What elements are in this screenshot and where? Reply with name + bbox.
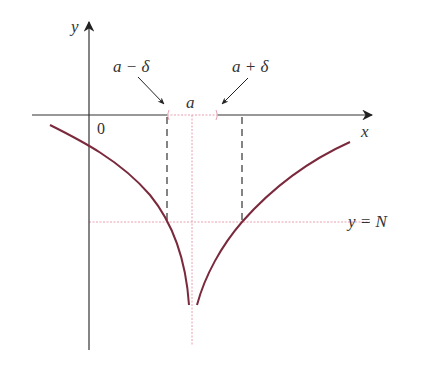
label-a-minus-delta: a − δ [113,58,149,75]
x-axis-label: x [361,123,369,140]
curve-left-branch [50,125,189,305]
arrow-to-a-minus-delta [138,77,164,104]
y-axis-label: y [71,18,79,35]
diagram-canvas [0,0,428,380]
origin-label: 0 [97,121,105,137]
label-y-equals-N: y = N [348,213,387,230]
arrow-to-a-plus-delta [222,78,248,104]
label-a-plus-delta: a + δ [232,58,268,75]
curve-right-branch [197,142,350,305]
label-a: a [186,94,195,111]
